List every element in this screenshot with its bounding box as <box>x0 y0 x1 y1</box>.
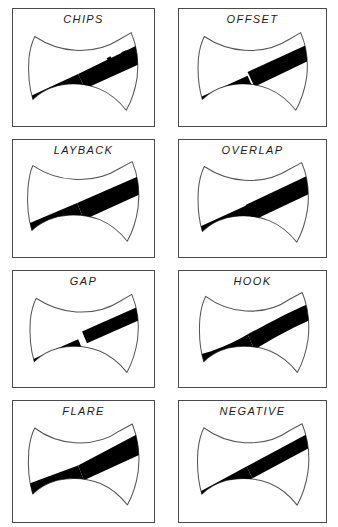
panel-box: LAYBACK <box>12 139 155 258</box>
axe-head-icon <box>179 9 326 126</box>
panel-flare[interactable]: FLARE <box>0 392 166 527</box>
panel-layback[interactable]: LAYBACK <box>0 131 166 262</box>
axe-head-icon <box>179 271 326 387</box>
axe-head-icon <box>179 140 326 257</box>
panel-gap[interactable]: GAP <box>0 262 166 392</box>
axe-head-icon <box>179 401 326 522</box>
panel-box: CHIPS <box>12 8 155 127</box>
panel-hook[interactable]: HOOK <box>166 262 338 392</box>
panel-box: FLARE <box>12 400 155 523</box>
panel-offset[interactable]: OFFSET <box>166 0 338 131</box>
panel-box: HOOK <box>178 270 327 388</box>
axe-head-icon <box>13 140 154 257</box>
panel-grid: CHIPS <box>0 0 338 527</box>
panel-chips[interactable]: CHIPS <box>0 0 166 131</box>
axe-head-icon <box>13 271 154 387</box>
panel-box: NEGATIVE <box>178 400 327 523</box>
panel-box: GAP <box>12 270 155 388</box>
axe-head-icon <box>13 9 154 126</box>
panel-box: OVERLAP <box>178 139 327 258</box>
panel-negative[interactable]: NEGATIVE <box>166 392 338 527</box>
figure-root: CHIPS <box>0 0 338 527</box>
panel-overlap[interactable]: OVERLAP <box>166 131 338 262</box>
panel-box: OFFSET <box>178 8 327 127</box>
axe-head-icon <box>13 401 154 522</box>
